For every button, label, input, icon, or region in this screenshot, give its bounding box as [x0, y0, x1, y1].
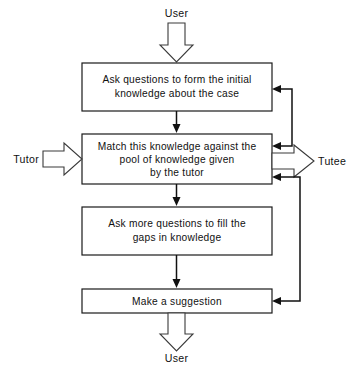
box-match-knowledge-line-3: by the tutor	[150, 167, 204, 178]
box-make-suggestion-line-1: Make a suggestion	[132, 296, 222, 307]
box-match-knowledge-line-1: Match this knowledge against the	[98, 141, 257, 152]
connector-c1-to-c2	[173, 111, 181, 133]
connector-feedback-2-1-path	[278, 89, 292, 146]
block-arrow-right-tutor-in	[43, 143, 82, 175]
connector-feedback-4-2-head-lower	[272, 297, 281, 305]
box-more-questions-line-2: gaps in knowledge	[133, 232, 222, 243]
connector-tutor-in	[43, 143, 82, 175]
label-tutor: Tutor	[13, 153, 39, 165]
box-match-knowledge[interactable]: Match this knowledge against the pool of…	[82, 134, 272, 184]
box-initial-questions-rect[interactable]	[82, 63, 272, 111]
connector-feedback-2-1-head-upper	[272, 85, 281, 93]
box-initial-questions-line-1: Ask questions to form the initial	[102, 74, 251, 85]
block-arrow-right-tutee-out	[272, 145, 314, 177]
block-arrow-down-user-in	[160, 23, 193, 62]
connector-feedback-4-2-path	[278, 177, 300, 301]
box-initial-questions[interactable]: Ask questions to form the initial knowle…	[82, 63, 272, 111]
label-user-bottom: User	[165, 352, 189, 364]
connector-c3-to-c4	[173, 255, 181, 288]
connector-user-out	[160, 313, 193, 351]
box-make-suggestion[interactable]: Make a suggestion	[82, 289, 272, 313]
connector-feedback-2-1	[272, 85, 292, 150]
connector-tutee-out	[272, 145, 314, 177]
connector-feedback-4-2-head-upper	[272, 173, 281, 181]
connector-user-in	[160, 23, 193, 62]
box-initial-questions-line-2: knowledge about the case	[115, 88, 239, 99]
box-match-knowledge-line-2: pool of knowledge given	[119, 154, 234, 165]
box-more-questions-rect[interactable]	[82, 207, 272, 255]
label-user-top: User	[165, 7, 189, 19]
flowchart-diagram: User Ask questions to form the initial k…	[0, 0, 362, 365]
connector-c2-to-c3-head	[173, 197, 181, 206]
connector-feedback-2-1-head-lower	[272, 142, 281, 150]
box-more-questions-line-1: Ask more questions to fill the	[108, 218, 246, 229]
connector-c2-to-c3	[173, 184, 181, 206]
flowchart-canvas: User Ask questions to form the initial k…	[0, 0, 362, 365]
label-tutee: Tutee	[318, 155, 346, 167]
connector-c3-to-c4-head	[173, 279, 181, 288]
connector-feedback-4-2	[272, 173, 300, 305]
block-arrow-down-user-out	[160, 313, 193, 351]
box-more-questions[interactable]: Ask more questions to fill the gaps in k…	[82, 207, 272, 255]
connector-c1-to-c2-head	[173, 124, 181, 133]
